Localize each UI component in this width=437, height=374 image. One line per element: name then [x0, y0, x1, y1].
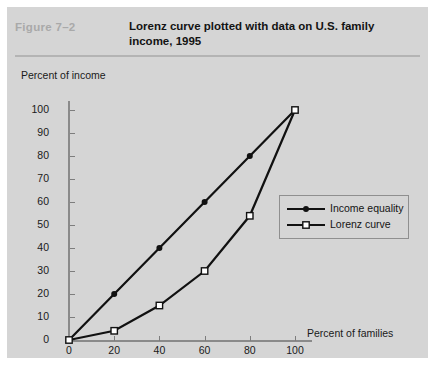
figure-title-line-1: Lorenz curve plotted with data on U.S. f… — [129, 19, 419, 34]
legend-open-square-icon — [286, 218, 326, 232]
data-point-marker — [201, 268, 207, 274]
figure-number-label: Figure 7–2 — [15, 21, 76, 33]
data-point-marker — [111, 291, 117, 297]
data-point-marker — [156, 302, 162, 308]
data-point-marker — [247, 153, 253, 159]
figure-header: Figure 7–2 Lorenz curve plotted with dat… — [7, 7, 428, 55]
figure-panel: Figure 7–2 Lorenz curve plotted with dat… — [7, 7, 428, 358]
series-line — [69, 110, 295, 340]
legend-item-label: Lorenz curve — [330, 218, 391, 230]
legend-item: Lorenz curve — [286, 217, 404, 233]
figure-title-line-2: income, 1995 — [129, 34, 419, 49]
data-point-marker — [202, 199, 208, 205]
series-1 — [66, 107, 298, 343]
figure-title: Lorenz curve plotted with data on U.S. f… — [129, 19, 419, 49]
data-point-marker — [292, 107, 298, 113]
chart-legend: Income equalityLorenz curve — [279, 195, 409, 239]
chart-plot-area: Percent of income Percent of families 01… — [7, 55, 428, 358]
legend-item-label: Income equality — [330, 202, 404, 214]
data-point-marker — [66, 337, 72, 343]
legend-item: Income equality — [286, 201, 404, 217]
data-point-marker — [156, 245, 162, 251]
data-point-marker — [111, 328, 117, 334]
legend-filled-circle-icon — [286, 202, 326, 216]
data-point-marker — [247, 213, 253, 219]
